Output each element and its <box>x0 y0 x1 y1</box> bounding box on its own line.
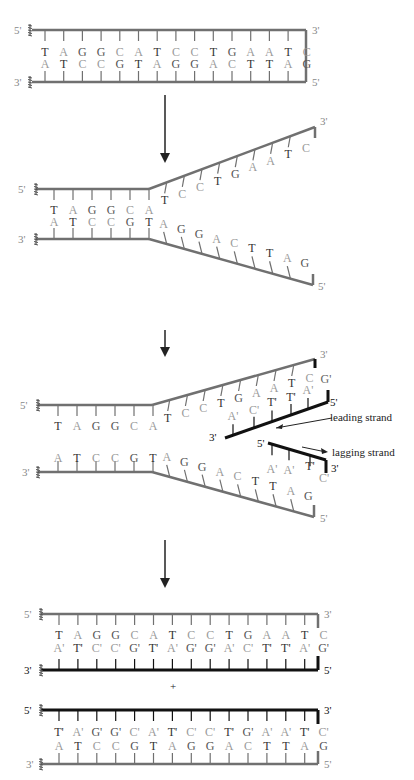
base-bottom: T <box>145 215 153 229</box>
base-new: C' <box>92 641 102 655</box>
base-new: T' <box>73 641 83 655</box>
base-bottom: A <box>300 739 309 753</box>
base-top: A <box>149 419 158 433</box>
base-top: A <box>149 628 158 642</box>
base-bottom: G <box>198 460 207 474</box>
end-label-3prime: 3' <box>18 233 26 245</box>
base-new: G' <box>186 641 197 655</box>
arrow-head-icon <box>321 448 328 454</box>
stage-replication-fork: 5'3'3'5'TAATGCGCCGATTACGCGTAGCATATTACG <box>18 115 328 292</box>
base-bottom: G <box>301 256 310 270</box>
leading-strand-label: leading strand <box>330 411 393 423</box>
base-new: T' <box>281 641 291 655</box>
end-label-3prime: 3' <box>22 466 30 478</box>
helix-cut-end-icon <box>28 76 32 88</box>
base-new: G' <box>110 725 121 739</box>
base-top: T <box>217 396 225 410</box>
base-top: C <box>130 419 138 433</box>
base-new: C' <box>249 403 259 417</box>
base-bottom: T <box>252 474 260 488</box>
base-top: T <box>301 628 309 642</box>
end-label-3prime: 3' <box>312 24 320 36</box>
base-top: C <box>320 628 328 642</box>
base-top: C <box>199 401 207 415</box>
leading-direction-arrow <box>276 418 332 428</box>
base-bottom: G <box>319 739 328 753</box>
base-top: G <box>244 628 253 642</box>
base-bottom: G <box>302 57 311 71</box>
base-new: C' <box>111 641 121 655</box>
base-new: A' <box>303 383 314 397</box>
base-top: T <box>285 147 293 161</box>
base-new: C' <box>243 641 253 655</box>
base-bottom: G <box>190 57 199 71</box>
base-new: A' <box>72 725 83 739</box>
base-bottom: T <box>60 57 68 71</box>
end-label-5prime: 5' <box>330 396 338 408</box>
base-new: A' <box>167 641 178 655</box>
base-new: A' <box>299 641 310 655</box>
base-bottom: C <box>107 215 115 229</box>
base-bottom: T <box>74 739 82 753</box>
base-bottom: A <box>54 451 63 465</box>
end-label-3prime: 3' <box>14 76 22 88</box>
base-bottom: A <box>162 450 171 464</box>
base-top: T <box>288 376 296 390</box>
base-top: T <box>161 193 169 207</box>
dna-replication-diagram: 5'3'3'5'TAATGCGCCGATTACGCGTAGCATATTACG 5… <box>0 0 414 780</box>
base-bottom: T <box>247 57 255 71</box>
end-label-5prime: 5' <box>20 399 28 411</box>
base-new: G' <box>205 641 216 655</box>
arrow-down-icon <box>160 153 170 163</box>
base-top: A <box>270 381 279 395</box>
end-label-5prime: 5' <box>318 280 326 292</box>
base-new: T' <box>300 725 310 739</box>
base-bottom: G <box>115 57 124 71</box>
base-new: A' <box>224 641 235 655</box>
end-label-5prime: 5' <box>14 24 22 36</box>
base-bottom: A <box>212 232 221 246</box>
base-bottom: T <box>266 57 274 71</box>
base-bottom: C <box>228 57 236 71</box>
base-top: T <box>164 411 172 425</box>
base-new: C' <box>319 725 329 739</box>
base-new: A' <box>148 725 159 739</box>
end-label-5prime: 5' <box>312 76 320 88</box>
base-new: G' <box>243 725 254 739</box>
end-label-5prime: 5' <box>24 608 32 620</box>
base-top: C <box>187 628 195 642</box>
arrow-down-icon <box>160 578 170 588</box>
lagging-strand <box>268 443 326 460</box>
base-bottom: C <box>244 739 252 753</box>
end-label-5prime: 5' <box>320 512 328 524</box>
base-top: C <box>131 628 139 642</box>
base-top: C <box>302 141 310 155</box>
base-top: T <box>169 628 177 642</box>
base-bottom: T <box>266 246 274 260</box>
base-top: C <box>178 187 186 201</box>
end-label-3prime: 3' <box>324 608 332 620</box>
base-bottom: A <box>168 739 177 753</box>
base-top: A <box>281 628 290 642</box>
end-label-3prime: 3' <box>331 462 339 474</box>
base-new: G' <box>91 725 102 739</box>
base-bottom: C <box>230 236 238 250</box>
base-bottom: A <box>41 57 50 71</box>
base-new: C' <box>130 725 140 739</box>
base-top: A <box>249 160 258 174</box>
base-top: G <box>111 419 120 433</box>
end-label-3prime: 3' <box>209 431 217 443</box>
end-label-3prime: 3' <box>324 704 332 716</box>
base-bottom: A <box>286 484 295 498</box>
base-bottom: T <box>135 57 143 71</box>
base-bottom: T <box>282 739 290 753</box>
end-label-5prime: 5' <box>324 664 332 676</box>
stage-daughter-helices: 5'3'3'5'TA'AT'GC'GC'CG'AT'TA'CG'CG'TA'GC… <box>24 608 332 770</box>
base-bottom: A <box>225 739 234 753</box>
base-new: A' <box>267 462 278 476</box>
base-bottom: A <box>153 57 162 71</box>
end-label-3prime: 3' <box>320 115 328 127</box>
helix-cut-end-icon <box>28 24 32 36</box>
base-top: T <box>214 174 222 188</box>
end-label-3prime: 3' <box>320 348 328 360</box>
